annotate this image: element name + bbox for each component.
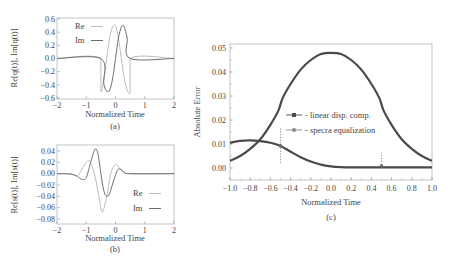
panel-c-xlabel: Normalized Time: [301, 197, 361, 207]
ytick-label: −0.4: [40, 81, 55, 90]
panel-a-ylabel: Re[q(t)], Im[q(t)]: [9, 28, 19, 87]
ytick-label: 0.6: [45, 15, 55, 24]
legend-label: Im: [75, 35, 85, 45]
ytick-label: 0.04: [41, 147, 55, 156]
ytick-label: 0.00: [212, 164, 226, 173]
series-line-linear-disp-comp-: [230, 53, 432, 161]
panel-b-axes-box: [57, 145, 174, 224]
xtick-label: 0.2: [346, 184, 356, 193]
xtick-label: 0.8: [407, 184, 417, 193]
series-line-re: [57, 161, 174, 213]
panel-c-chart: 0.050.040.030.020.010.00 −1.0−0.8−0.6−0.…: [192, 44, 437, 222]
legend-label: - linear disp. comp.: [305, 110, 371, 120]
legend-label: Re: [75, 21, 85, 31]
xtick-label: 0.4: [366, 184, 376, 193]
ytick-label: 0.05: [212, 44, 226, 53]
xtick-label: 0.0: [326, 184, 336, 193]
figure: 0.60.40.20.0−0.2−0.4−0.6 −2−1012 ReIm No…: [0, 0, 452, 263]
xtick-label: −0.2: [304, 184, 319, 193]
panel-a-chart: 0.60.40.20.0−0.2−0.4−0.6 −2−1012 ReIm No…: [9, 15, 176, 131]
xtick-label: 2: [172, 226, 176, 235]
series-line-specra-equalization: [230, 140, 432, 167]
panel-a-xticks: −2−1012: [53, 96, 176, 110]
xtick-label: −1.0: [223, 184, 238, 193]
panel-b-ylabel: Re[s(t)], Im[s(t)]: [9, 156, 19, 213]
panel-a-xlabel: Normalized Time: [85, 109, 145, 119]
panel-b-xlabel: Normalized Time: [85, 233, 145, 243]
ytick-label: 0.01: [212, 140, 226, 149]
panel-c-caption: (c): [326, 212, 336, 222]
ytick-label: 0.00: [41, 169, 55, 178]
panel-c-xticks: −1.0−0.8−0.6−0.4−0.20.00.20.40.60.81.0: [223, 177, 437, 193]
panel-b-legend: ReIm: [133, 188, 161, 213]
ytick-label: 0.03: [212, 92, 226, 101]
panel-a-legend: ReIm: [75, 21, 103, 45]
xtick-label: −2: [53, 101, 62, 110]
xtick-label: 1.0: [427, 184, 437, 193]
xtick-label: −0.4: [283, 184, 298, 193]
series-line-im: [57, 149, 174, 197]
panel-c-ylabel: Absolute Error: [192, 86, 202, 137]
xtick-label: −2: [53, 226, 62, 235]
ytick-label: 0.02: [41, 158, 55, 167]
ytick-label: 0.02: [212, 116, 226, 125]
xtick-label: −0.8: [243, 184, 258, 193]
xtick-label: 0.6: [387, 184, 397, 193]
xtick-label: 2: [172, 101, 176, 110]
ytick-label: −0.06: [36, 203, 55, 212]
ytick-label: −0.08: [36, 215, 55, 224]
panel-b-caption: (b): [110, 244, 120, 254]
ytick-label: 0.2: [45, 41, 55, 50]
legend-label: Im: [133, 203, 143, 213]
ytick-label: 0.4: [45, 28, 55, 37]
ytick-label: 0.04: [212, 68, 226, 77]
ytick-label: −0.04: [36, 192, 55, 201]
ytick-label: 0.0: [45, 54, 55, 63]
panel-a-caption: (a): [110, 121, 120, 131]
ytick-label: −0.2: [40, 67, 55, 76]
xtick-label: −0.6: [263, 184, 278, 193]
legend-label: - specra equalization: [305, 125, 376, 135]
panel-b-yticks: 0.040.020.00−0.02−0.04−0.06−0.08: [36, 147, 60, 224]
panel-b-lines: [57, 149, 174, 212]
panel-b-chart: 0.040.020.00−0.02−0.04−0.06−0.08 −2−1012…: [9, 145, 176, 254]
panel-c-legend: - linear disp. comp.- specra equalizatio…: [286, 110, 376, 135]
legend-label: Re: [133, 188, 143, 198]
ytick-label: −0.02: [36, 181, 55, 190]
